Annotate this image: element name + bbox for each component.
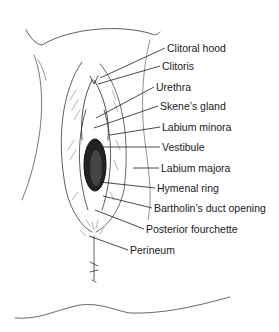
label-hymenal-ring: Hymenal ring xyxy=(157,182,219,194)
anatomy-diagram: Clitoral hood Clitoris Urethra Skene’s g… xyxy=(0,0,279,332)
label-labium-minora: Labium minora xyxy=(162,121,231,133)
leader-line-bartholins-duct-opening xyxy=(103,196,152,208)
label-skenes-gland: Skene’s gland xyxy=(160,100,226,112)
label-posterior-fourchette: Posterior fourchette xyxy=(146,223,238,235)
leader-line-perineum xyxy=(89,236,128,250)
leader-line-clitoral-hood xyxy=(100,48,165,78)
bottom-contour xyxy=(15,297,230,318)
upper-contour xyxy=(26,29,160,45)
label-vestibule: Vestibule xyxy=(162,141,205,153)
label-clitoral-hood: Clitoral hood xyxy=(167,42,226,54)
leader-line-posterior-fourchette xyxy=(95,210,144,229)
leader-line-labium-minora xyxy=(110,127,160,135)
label-perineum: Perineum xyxy=(130,244,175,256)
label-urethra: Urethra xyxy=(156,81,191,93)
leader-line-skenes-gland xyxy=(94,106,158,128)
label-labium-majora: Labium majora xyxy=(161,162,230,174)
anatomy-illustration xyxy=(0,0,279,332)
label-bartholins-duct-opening: Bartholin’s duct opening xyxy=(154,202,266,214)
label-clitoris: Clitoris xyxy=(162,60,194,72)
leader-line-urethra xyxy=(96,87,154,118)
